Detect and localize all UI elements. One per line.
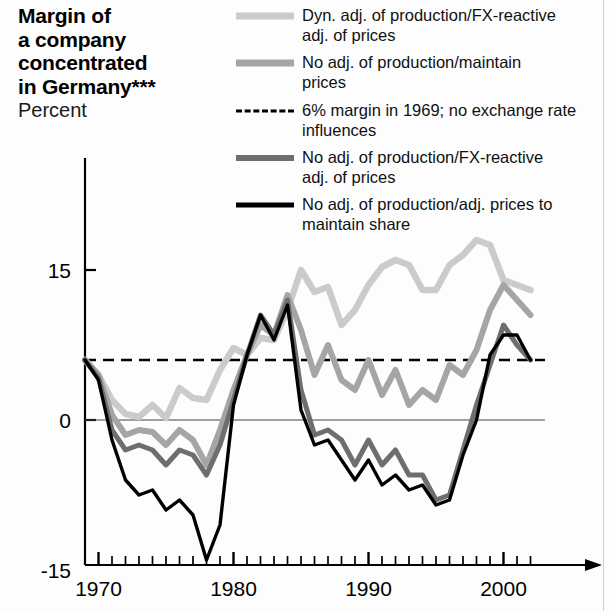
page-title: Margin of a company concentrated in Germ… [18, 4, 233, 98]
legend-item-no-adj-maintain-share[interactable]: No adj. of production/adj. prices to mai… [236, 194, 596, 234]
series-line-0 [85, 240, 531, 418]
chart-legend: Dyn. adj. of production/FX-reactive adj.… [236, 5, 596, 241]
page-edge-rule [603, 0, 604, 611]
legend-label-no-adj-maintain-prices: No adj. of production/maintain prices [302, 52, 521, 92]
x-tick-label-1980: 1980 [210, 577, 257, 600]
legend-swatch-dyn-adj-fx-reactive [236, 7, 294, 25]
chart-page: Margin of a company concentrated in Germ… [0, 0, 609, 611]
legend-swatch-six-pct-margin-1969 [236, 102, 294, 120]
y-tick-label-15: 15 [48, 259, 71, 282]
legend-swatch-no-adj-maintain-share [236, 196, 294, 214]
legend-item-six-pct-margin-1969[interactable]: 6% margin in 1969; no exchange rate infl… [236, 100, 596, 140]
y-tick-label--15: -15 [41, 559, 71, 582]
units-label: Percent [18, 99, 233, 122]
legend-item-no-adj-maintain-prices[interactable]: No adj. of production/maintain prices [236, 52, 596, 92]
series-line-1 [85, 285, 531, 465]
legend-label-no-adj-maintain-share: No adj. of production/adj. prices to mai… [302, 194, 552, 234]
title-block: Margin of a company concentrated in Germ… [18, 4, 233, 122]
legend-label-no-adj-fx-reactive: No adj. of production/FX-reactive adj. o… [302, 147, 543, 187]
legend-swatch-no-adj-fx-reactive [236, 149, 294, 167]
legend-item-no-adj-fx-reactive[interactable]: No adj. of production/FX-reactive adj. o… [236, 147, 596, 187]
x-axis-arrow-icon [585, 559, 602, 571]
legend-label-dyn-adj-fx-reactive: Dyn. adj. of production/FX-reactive adj.… [302, 5, 556, 45]
x-tick-label-2000: 2000 [480, 577, 527, 600]
legend-label-six-pct-margin-1969: 6% margin in 1969; no exchange rate infl… [302, 100, 576, 140]
series-line-3 [85, 305, 531, 560]
series-line-2 [85, 300, 531, 500]
y-tick-label-0: 0 [59, 409, 71, 432]
x-tick-label-1990: 1990 [345, 577, 392, 600]
x-tick-label-1970: 1970 [75, 577, 122, 600]
legend-item-dyn-adj-fx-reactive[interactable]: Dyn. adj. of production/FX-reactive adj.… [236, 5, 596, 45]
legend-swatch-no-adj-maintain-prices [236, 54, 294, 72]
